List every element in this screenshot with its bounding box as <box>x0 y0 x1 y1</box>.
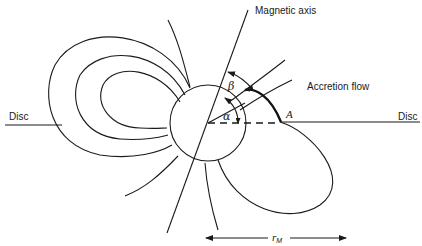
accretion-diagram: Magnetic axis Accretion flow Disc Disc A… <box>0 0 422 246</box>
alpha-label: α <box>223 110 231 123</box>
field-loop-right <box>218 122 333 214</box>
field-line-lower-1 <box>125 156 178 196</box>
magnetic-axis-line <box>167 10 248 233</box>
field-line-lower-2 <box>205 163 218 230</box>
accretion-flow-label: Accretion flow <box>307 81 370 92</box>
magnetic-axis-label: Magnetic axis <box>255 5 316 16</box>
point-a-label: A <box>285 108 293 120</box>
disc-left-label: Disc <box>9 111 28 122</box>
disc-right-label: Disc <box>398 111 417 122</box>
beta-label: β <box>227 80 234 93</box>
field-line-upper-2 <box>232 60 285 100</box>
radius-label: rM <box>272 231 282 244</box>
field-loop-inner <box>101 71 180 128</box>
accretion-flow-arc <box>245 90 281 122</box>
